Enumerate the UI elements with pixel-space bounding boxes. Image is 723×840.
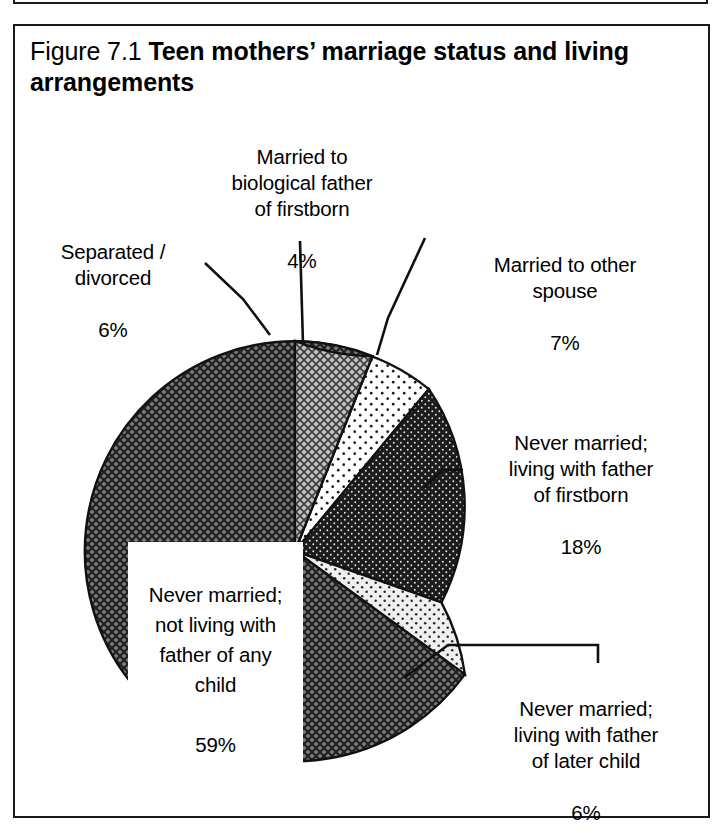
label-never-married-living-firstborn: Never married; living with father of fir…: [468, 404, 694, 560]
label-married-other-spouse-text: Married to other spouse: [494, 253, 636, 302]
label-married-bio-father: Married to biological father of firstbor…: [186, 118, 418, 274]
label-living-firstborn-text: Never married; living with father of fir…: [509, 431, 653, 506]
label-married-other-spouse: Married to other spouse 7%: [440, 226, 690, 356]
label-separated-divorced-text: Separated / divorced: [61, 240, 165, 289]
label-never-married-not-living: Never married; not living with father of…: [128, 542, 303, 770]
label-married-bio-father-text: Married to biological father of firstbor…: [231, 145, 372, 220]
label-never-married-living-later-child: Never married; living with father of lat…: [470, 670, 702, 826]
label-later-child-text: Never married; living with father of lat…: [514, 697, 658, 772]
label-not-living-value: 59%: [195, 733, 236, 756]
label-later-child-value: 6%: [571, 801, 600, 824]
label-living-firstborn-value: 18%: [561, 535, 602, 558]
label-married-bio-father-value: 4%: [287, 249, 316, 272]
label-not-living-text: Never married; not living with father of…: [149, 583, 282, 696]
label-separated-divorced: Separated / divorced 6%: [18, 213, 208, 343]
figure-container: Figure 7.1 Teen mothers’ marriage status…: [0, 0, 723, 840]
label-married-other-spouse-value: 7%: [550, 331, 579, 354]
label-separated-divorced-value: 6%: [98, 318, 127, 341]
